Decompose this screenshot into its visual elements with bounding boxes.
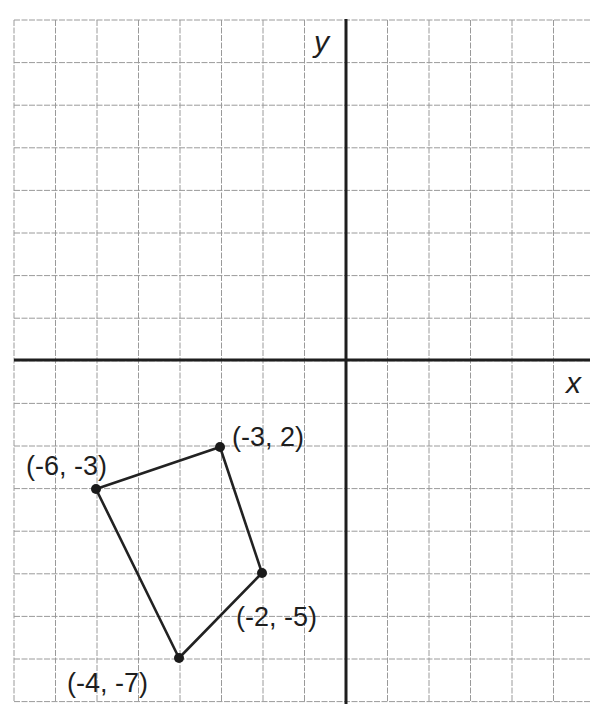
vertex-point-c (174, 653, 184, 663)
x-axis-label: x (564, 366, 582, 399)
vertex-point-a (215, 442, 225, 452)
coordinate-plane: y x (-3, 2) (-2, -5) (-4, -7) (-6, -3) (0, 0, 590, 725)
vertex-point-b (257, 568, 267, 578)
vertex-point-d (91, 484, 101, 494)
vertex-label-b: (-2, -5) (236, 602, 317, 632)
y-axis-label: y (312, 25, 331, 58)
vertex-label-a: (-3, 2) (232, 422, 304, 452)
vertex-label-c: (-4, -7) (67, 668, 148, 698)
vertex-label-d: (-6, -3) (26, 451, 107, 481)
